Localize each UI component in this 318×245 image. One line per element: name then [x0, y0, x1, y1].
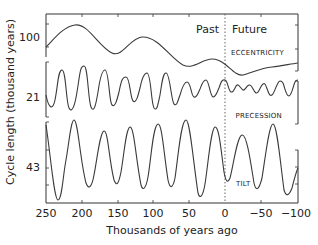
precession-label: PRECESSION [235, 112, 282, 120]
future-label: Future [232, 23, 267, 36]
precession-curve [46, 66, 298, 110]
x-axis-title: Thousands of years ago [105, 224, 238, 237]
orbital-cycles-chart: 100 21 43 Cycle length (thousand years) … [0, 0, 318, 245]
x-tick-200: 200 [72, 207, 93, 220]
x-tick-150: 150 [108, 207, 129, 220]
eccentricity-label: ECCENTRICITY [231, 49, 284, 57]
tilt-label: TILT [235, 180, 251, 188]
past-label: Past [196, 23, 220, 36]
x-tick-0: 0 [222, 207, 229, 220]
x-tick-minus-50: −50 [249, 207, 272, 220]
y-axis-title: Cycle length (thousand years) [4, 19, 17, 185]
x-tick-minus-100: −100 [281, 207, 311, 220]
y-label-precession: 21 [26, 91, 40, 104]
x-tick-50: 50 [182, 207, 196, 220]
x-tick-100: 100 [143, 207, 164, 220]
y-label-eccentricity: 100 [19, 31, 40, 44]
y-label-tilt: 43 [26, 161, 40, 174]
x-tick-labels: 250 200 150 100 50 0 −50 −100 [36, 207, 312, 220]
left-axis [46, 14, 49, 203]
x-tick-250: 250 [36, 207, 57, 220]
tilt-curve [46, 120, 298, 200]
